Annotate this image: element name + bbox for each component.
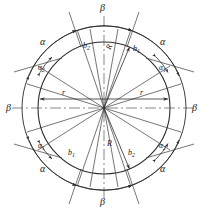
label-alpha2-lower-right-sub: 2	[163, 145, 166, 151]
label-alpha2-upper-left: α2	[38, 64, 45, 73]
label-beta-left: β	[6, 103, 11, 113]
arc-dimension-alpha-bottom-right	[132, 140, 179, 185]
label-beta-right: β	[192, 103, 197, 113]
label-alpha-bottom-right: α	[160, 164, 165, 174]
arc-dimension-alpha-bottom-left	[29, 140, 76, 185]
label-b2-lower-right: b2	[128, 149, 135, 158]
label-alpha1-lower-left-sub: 1	[42, 145, 45, 151]
label-r-left: r	[62, 89, 65, 97]
label-alpha-top-left: α	[40, 37, 45, 47]
arc-dimension-alpha-top-left	[29, 31, 76, 76]
label-alpha-top-right: α	[160, 37, 165, 47]
label-alpha1-upper-right: α1	[159, 64, 166, 73]
label-b1-upper-right: b1	[133, 45, 140, 54]
diagram-canvas	[0, 0, 209, 213]
label-beta-top: β	[100, 3, 105, 13]
label-alpha1-upper-right-sub: 1	[163, 67, 166, 73]
label-alpha-bottom-left: α	[40, 164, 45, 174]
label-alpha1-lower-left: α1	[38, 142, 45, 151]
label-b2-upper-left: b2	[83, 42, 90, 51]
label-r-right: r	[140, 89, 143, 97]
label-b2-lower-right-sub: 2	[132, 152, 135, 158]
label-alpha2-upper-left-sub: 2	[42, 67, 45, 73]
label-beta-bottom: β	[100, 197, 105, 207]
label-b1-upper-right-sub: 1	[137, 48, 140, 54]
label-R-bottom: R	[107, 140, 112, 148]
label-b2-upper-left-sub: 2	[87, 45, 90, 51]
label-alpha2-lower-right: α2	[159, 142, 166, 151]
label-b1-lower-left: b1	[68, 149, 75, 158]
label-b1-lower-left-sub: 1	[72, 152, 75, 158]
circle-angle-diagram: β β β β α α α α α2 α1 α1 α2 b2 b1 b1 b2	[0, 0, 209, 213]
